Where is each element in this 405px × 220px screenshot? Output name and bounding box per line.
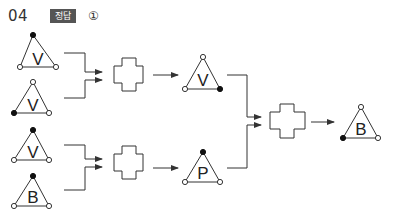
triangle-letter: B	[27, 188, 38, 207]
filled-dot-icon	[11, 110, 16, 115]
output-triangle: B	[340, 104, 380, 140]
open-dot-icon	[11, 203, 16, 208]
triangle-letter: V	[27, 96, 39, 115]
open-dot-icon	[30, 79, 35, 84]
filled-dot-icon	[30, 173, 35, 178]
triangle-letter: V	[27, 143, 39, 162]
open-dot-icon	[46, 110, 51, 115]
cross-operator-2	[114, 146, 143, 179]
filled-dot-icon	[217, 86, 222, 91]
open-dot-icon	[46, 157, 51, 162]
filled-dot-icon	[200, 149, 205, 154]
open-dot-icon	[217, 179, 222, 184]
input-triangle-3: V	[11, 127, 51, 162]
triangle-letter: B	[355, 120, 366, 139]
open-dot-icon	[200, 54, 205, 59]
combination-diagram: V V V B	[0, 0, 405, 220]
triangle-letter: P	[197, 164, 208, 183]
input-triangle-1: V	[17, 32, 58, 69]
triangle-letter: V	[197, 71, 209, 90]
cross-operator-1	[114, 58, 143, 91]
input-triangle-4: B	[11, 173, 51, 208]
open-dot-icon	[375, 135, 380, 140]
cross-operator-3	[270, 104, 305, 138]
input-triangle-2: V	[11, 79, 51, 115]
open-dot-icon	[17, 64, 22, 69]
connector-group-1	[64, 53, 102, 98]
intermediate-triangle-1: V	[182, 54, 222, 91]
connector-group-2	[64, 145, 102, 190]
filled-dot-icon	[30, 32, 35, 37]
open-dot-icon	[182, 179, 187, 184]
connector-group-3	[227, 75, 261, 168]
open-dot-icon	[53, 64, 58, 69]
open-dot-icon	[46, 203, 51, 208]
open-dot-icon	[182, 86, 187, 91]
open-dot-icon	[11, 157, 16, 162]
triangle-letter: V	[32, 50, 44, 69]
intermediate-triangle-2: P	[182, 149, 222, 184]
open-dot-icon	[358, 104, 363, 109]
filled-dot-icon	[340, 135, 345, 140]
filled-dot-icon	[30, 127, 35, 132]
